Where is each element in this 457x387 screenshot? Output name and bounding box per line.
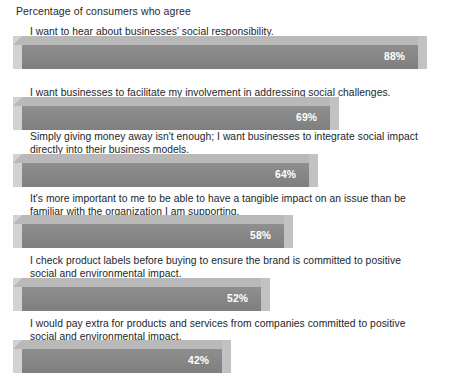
bar-side-face bbox=[261, 278, 270, 311]
bar-top-face bbox=[13, 278, 261, 287]
bar-front-face bbox=[22, 45, 418, 69]
bar-side-face bbox=[309, 154, 318, 187]
bar-front-face bbox=[22, 287, 261, 311]
bar-value-label: 42% bbox=[188, 356, 209, 366]
bar-side-face bbox=[330, 97, 339, 130]
bar-top-face bbox=[13, 97, 330, 106]
chart-title: Percentage of consumers who agree bbox=[16, 5, 191, 17]
bar-side-face bbox=[418, 36, 427, 69]
bar-top-face bbox=[13, 36, 418, 45]
bar-top-face bbox=[13, 340, 222, 349]
bar-category-label: Simply giving money away isn't enough; I… bbox=[30, 130, 420, 156]
bar-value-label: 52% bbox=[227, 294, 248, 304]
bar-value-label: 58% bbox=[250, 231, 271, 241]
bar-chart: Percentage of consumers who agree I want… bbox=[0, 0, 457, 387]
bar-value-label: 88% bbox=[384, 52, 405, 62]
bar-front-face bbox=[22, 163, 309, 187]
bar-value-label: 69% bbox=[296, 113, 317, 123]
bar-front-face bbox=[22, 224, 284, 248]
bar-top-face bbox=[13, 154, 309, 163]
bar-value-label: 64% bbox=[275, 170, 296, 180]
bar-front-face bbox=[22, 106, 330, 130]
bar-category-label: I check product labels before buying to … bbox=[30, 254, 422, 280]
bar-side-face bbox=[222, 340, 231, 373]
bar-top-face bbox=[13, 215, 284, 224]
bar-side-face bbox=[284, 215, 293, 248]
